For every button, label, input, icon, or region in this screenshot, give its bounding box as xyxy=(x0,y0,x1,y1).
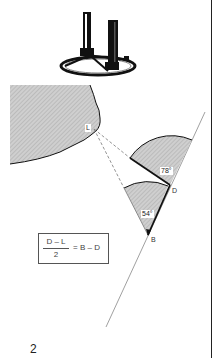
formula-denominator: 2 xyxy=(43,249,69,260)
surveying-instrument-icon xyxy=(61,12,135,75)
page-edge-rule xyxy=(211,0,212,358)
page-number: 2 xyxy=(30,342,37,356)
angle-label-upper: 78° xyxy=(160,167,173,175)
sight-line-L-D xyxy=(94,129,130,158)
book-page: ~ ~ ~ ~ ~ ~ ~ ~ ~ ~ xyxy=(0,0,215,358)
formula-rhs: = B – D xyxy=(73,243,100,252)
point-label-B: B xyxy=(151,236,156,244)
point-label-D: D xyxy=(172,187,177,195)
sight-line-L-B xyxy=(94,129,124,188)
angle-label-lower: 54° xyxy=(141,210,154,218)
point-label-L: L xyxy=(85,124,91,132)
lower-angle-wedge xyxy=(124,182,168,235)
formula-numerator: D – L xyxy=(43,237,69,249)
diagram-canvas xyxy=(0,0,215,358)
formula-box: D – L 2 = B – D xyxy=(38,233,109,264)
formula-fraction: D – L 2 xyxy=(43,237,69,260)
